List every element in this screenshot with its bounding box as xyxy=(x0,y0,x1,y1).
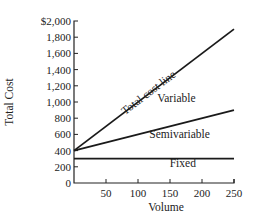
x-tick-label: 50 xyxy=(101,187,113,199)
y-axis-label: Total Cost xyxy=(3,77,15,125)
x-axis-ticks: 50100150200250 xyxy=(101,179,243,199)
x-tick-label: 250 xyxy=(226,187,243,199)
annotation-variable: Variable xyxy=(157,92,195,104)
y-tick-label: 0 xyxy=(66,177,72,189)
annotation-fixed: Fixed xyxy=(170,157,196,169)
y-tick-label: 400 xyxy=(55,145,72,157)
cost-behavior-chart: 02004006008001,0001,2001,4001,6001,800$2… xyxy=(0,0,253,219)
y-tick-label: 1,600 xyxy=(46,47,71,59)
y-tick-label: 1,400 xyxy=(46,64,71,76)
x-tick-label: 100 xyxy=(130,187,147,199)
y-tick-label: 1,800 xyxy=(46,31,71,43)
x-tick-label: 150 xyxy=(162,187,179,199)
y-tick-label: 800 xyxy=(55,112,72,124)
y-tick-label: 600 xyxy=(55,128,72,140)
x-axis-label: Volume xyxy=(148,201,184,213)
y-tick-label: $2,000 xyxy=(41,15,72,27)
x-tick-label: 200 xyxy=(194,187,211,199)
annotations: Total cost lineVariableSemivariableFixed xyxy=(119,68,210,169)
annotation-semivariable: Semivariable xyxy=(149,128,210,140)
y-axis-ticks: 02004006008001,0001,2001,4001,6001,800$2… xyxy=(41,15,78,189)
y-tick-label: 1,000 xyxy=(46,96,71,108)
y-tick-label: 1,200 xyxy=(46,80,71,92)
y-tick-label: 200 xyxy=(55,161,72,173)
